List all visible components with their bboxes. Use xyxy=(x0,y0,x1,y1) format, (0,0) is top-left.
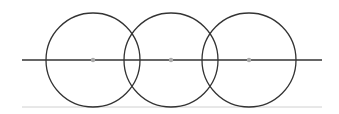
center-point-1 xyxy=(91,58,95,62)
center-point-3 xyxy=(247,58,251,62)
center-point-2 xyxy=(169,58,173,62)
diagram-canvas xyxy=(0,0,339,114)
